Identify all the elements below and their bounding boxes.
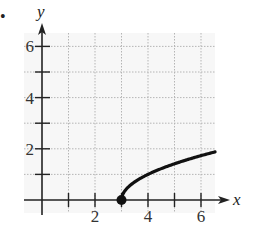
graph: 246246 x y xyxy=(0,0,254,240)
y-tick-label: 2 xyxy=(26,140,35,159)
y-tick-label: 4 xyxy=(26,89,35,108)
y-tick-label: 6 xyxy=(26,37,35,56)
closed-endpoint-dot xyxy=(117,195,127,205)
x-tick-label: 6 xyxy=(197,207,206,226)
y-axis-label: y xyxy=(35,2,45,21)
x-axis-label: x xyxy=(232,190,241,209)
x-tick-label: 2 xyxy=(91,207,100,226)
x-tick-label: 4 xyxy=(144,207,153,226)
